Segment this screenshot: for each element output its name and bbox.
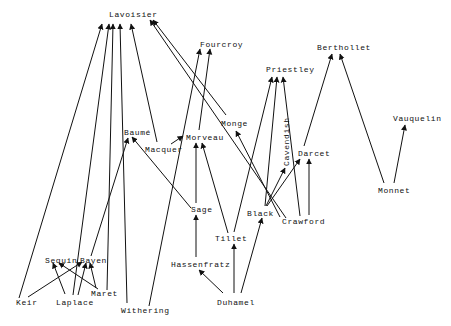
node-monge: Monge xyxy=(221,119,248,128)
node-vauquelin: Vauquelin xyxy=(393,114,442,123)
node-withering: Withering xyxy=(121,306,170,315)
edge-black-cavendish xyxy=(266,168,285,206)
node-crawford: Crawford xyxy=(282,217,325,226)
node-monnet: Monnet xyxy=(378,186,410,195)
node-morveau: Morveau xyxy=(186,133,224,142)
edge-duhamel-hassenfratz xyxy=(199,270,223,293)
edge-monnet-berthollet xyxy=(340,54,384,183)
edge-bayen-baume xyxy=(91,138,128,256)
node-keir: Keir xyxy=(16,298,38,307)
node-berthollet: Berthollet xyxy=(317,43,371,52)
node-hassenfratz: Hassenfratz xyxy=(171,260,230,269)
node-cavendish: Cavendish xyxy=(282,117,291,166)
node-sage: Sage xyxy=(191,205,213,214)
edge-black-darcet xyxy=(267,159,300,206)
edge-duhamel-black xyxy=(241,218,262,293)
edge-maret-sequin xyxy=(59,263,98,289)
node-bayen: Bayen xyxy=(80,256,107,265)
edge-tillet-morveau xyxy=(202,143,228,233)
edge-laplace-bayen xyxy=(78,263,86,295)
node-priestley: Priestley xyxy=(266,65,315,74)
node-baume: Baumé xyxy=(124,128,151,137)
node-black: Black xyxy=(247,209,274,218)
edge-withering-lavoisier xyxy=(120,24,127,303)
node-maret: Maret xyxy=(91,289,118,298)
edge-monnet-vauquelin xyxy=(394,125,405,183)
edge-morveau-fourcroy xyxy=(199,49,210,130)
node-lavoisier: Lavoisier xyxy=(109,10,158,19)
node-duhamel: Duhamel xyxy=(217,298,255,307)
node-tillet: Tillet xyxy=(215,234,247,243)
node-fourcroy: Fourcroy xyxy=(200,40,243,49)
edge-maret-lavoisier xyxy=(107,24,113,290)
edge-crawford-monge xyxy=(236,131,280,217)
node-macquer: Macquer xyxy=(145,145,183,154)
node-sequin: Sequin xyxy=(45,256,77,265)
edge-laplace-sequin xyxy=(53,263,65,294)
edge-macquer-lavoisier xyxy=(131,24,157,142)
graph-canvas: Lavoisier Fourcroy Priestley Berthollet … xyxy=(0,0,451,326)
node-darcet: Darcet xyxy=(298,149,330,158)
node-laplace: Laplace xyxy=(56,298,94,307)
